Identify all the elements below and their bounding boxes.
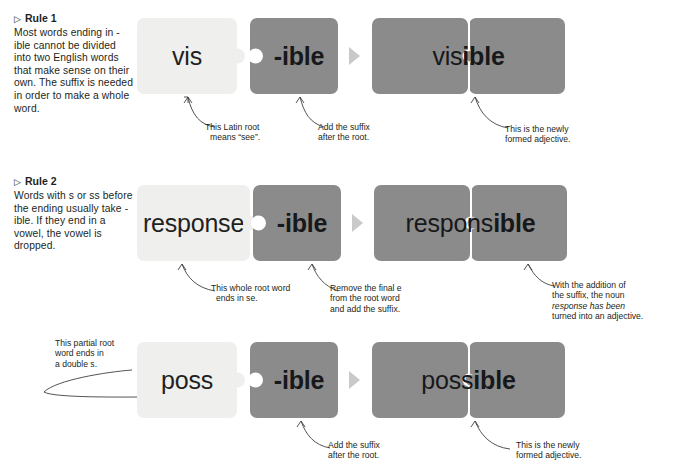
puzzle-socket-icon [248, 49, 263, 64]
sequence-arrow-icon-1 [349, 47, 360, 65]
triangle-marker-icon: ▷ [14, 176, 21, 189]
callout-ible-suffix-1: Add the suffix after the root. [318, 122, 403, 143]
callout-responsible-result: With the addition of the suffix, the nou… [552, 280, 670, 322]
piece-result-responsible: responsible [374, 185, 567, 261]
rule-1-title: Rule 1 [25, 12, 57, 25]
piece-suffix-ible-2: -ible [253, 185, 341, 261]
piece-root-response: response [137, 185, 250, 261]
callout-visible-result: This is the newly formed adjective. [505, 124, 600, 145]
rule-1-body: Most words ending in -ible cannot be div… [14, 27, 134, 115]
rule-2-title: Rule 2 [25, 175, 57, 188]
piece-result-responsible-label: responsible [406, 211, 536, 236]
piece-root-response-label: response [143, 211, 244, 236]
rule-2-text-block: ▷ Rule 2 Words with s or ss before the e… [14, 175, 134, 253]
puzzle-socket-icon [248, 373, 263, 388]
puzzle-knob-icon [230, 373, 245, 388]
piece-suffix-ible-2-label: -ible [277, 211, 327, 236]
piece-suffix-ible-3-label: -ible [274, 368, 324, 393]
callout-ible-suffix-3: Add the suffix after the root. [328, 440, 418, 461]
callout-possible-result: This is the newly formed adjective. [516, 440, 616, 461]
callout-ible-suffix-2: Remove the final e from the root word an… [330, 283, 430, 314]
rule-2-heading: ▷ Rule 2 [14, 175, 134, 189]
callout-curve-3c [468, 419, 516, 453]
piece-root-poss-label: poss [161, 368, 213, 393]
triangle-marker-icon: ▷ [14, 13, 21, 26]
piece-result-visible-label: visible [432, 44, 504, 69]
rule-1-heading: ▷ Rule 1 [14, 12, 134, 26]
rule-1-text-block: ▷ Rule 1 Most words ending in -ible cann… [14, 12, 134, 115]
sequence-arrow-icon-2 [352, 214, 363, 232]
piece-suffix-ible-3: -ible [250, 342, 338, 418]
piece-suffix-ible-1-label: -ible [274, 44, 324, 69]
piece-result-visible: visible [372, 18, 565, 94]
callout-vis-root: This Latin root means “see”. [205, 122, 290, 143]
piece-result-possible-label: possible [421, 368, 515, 393]
piece-root-poss: poss [137, 342, 237, 418]
piece-result-possible: possible [372, 342, 565, 418]
piece-suffix-ible-1: -ible [250, 18, 338, 94]
puzzle-knob-icon [230, 49, 245, 64]
piece-root-vis: vis [137, 18, 237, 94]
rule-2-body: Words with s or ss before the ending usu… [14, 190, 134, 253]
piece-root-vis-label: vis [172, 44, 202, 69]
puzzle-socket-icon [251, 216, 266, 231]
sequence-arrow-icon-3 [349, 371, 360, 389]
callout-poss-root: This partial root word ends in a double … [55, 338, 150, 369]
